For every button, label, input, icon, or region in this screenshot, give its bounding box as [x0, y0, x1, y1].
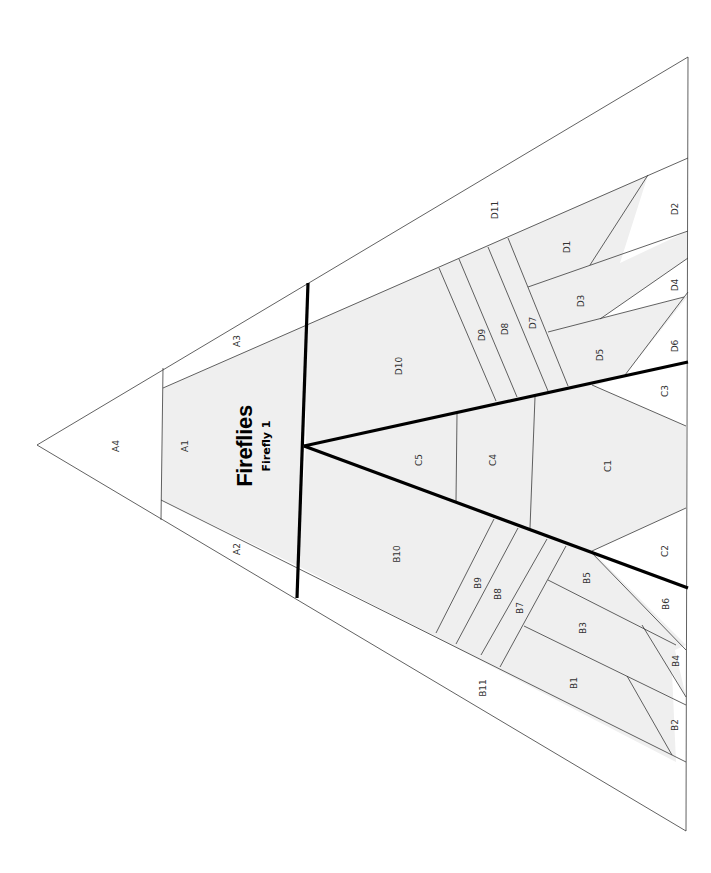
- label-b1: B1: [569, 677, 579, 689]
- label-a1: A1: [180, 440, 190, 452]
- label-b7: B7: [515, 602, 525, 614]
- label-b10: B10: [392, 545, 402, 563]
- label-b5: B5: [582, 572, 592, 584]
- label-b6: B6: [661, 598, 671, 610]
- label-a4: A4: [111, 440, 121, 452]
- label-d7: D7: [528, 317, 538, 330]
- label-d11: D11: [490, 201, 500, 219]
- label-c2: C2: [660, 545, 670, 557]
- label-b2: B2: [670, 719, 680, 731]
- label-d4: D4: [670, 278, 680, 291]
- label-b3: B3: [578, 622, 588, 634]
- label-c3: C3: [660, 385, 670, 397]
- pattern-subtitle: Firefly 1: [260, 421, 273, 472]
- label-b11: B11: [478, 679, 488, 697]
- label-d8: D8: [500, 322, 510, 335]
- label-d3: D3: [576, 295, 586, 308]
- label-c1: C1: [603, 460, 613, 472]
- label-d9: D9: [477, 328, 487, 341]
- pattern-title: Fireflies: [232, 405, 257, 487]
- label-d5: D5: [595, 349, 605, 362]
- label-c5: C5: [414, 454, 424, 466]
- label-a2: A2: [232, 543, 242, 555]
- paper-piecing-pattern: Fireflies Firefly 1 A4 A1 A3 A2 D11 D2 D…: [0, 0, 711, 873]
- label-b9: B9: [473, 577, 483, 589]
- label-d2: D2: [670, 203, 680, 216]
- label-a3: A3: [232, 335, 242, 347]
- label-d6: D6: [670, 339, 680, 352]
- label-d10: D10: [394, 357, 404, 376]
- label-d1: D1: [562, 241, 572, 254]
- label-b8: B8: [493, 588, 503, 600]
- label-c4: C4: [488, 454, 498, 466]
- label-b4: B4: [671, 655, 681, 667]
